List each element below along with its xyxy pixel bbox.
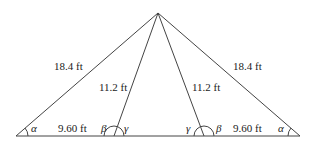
left-beta-gamma-arc <box>104 126 124 136</box>
left-base-length: 9.60 ft <box>58 123 87 134</box>
left-beta-label: β <box>101 123 106 134</box>
right-outer-length: 18.4 ft <box>233 61 262 72</box>
left-inner-length: 11.2 ft <box>99 82 127 93</box>
right-inner-side <box>158 13 204 136</box>
right-inner-length: 11.2 ft <box>192 82 220 93</box>
triangle-diagram: 18.4 ft 18.4 ft 11.2 ft 11.2 ft 9.60 ft … <box>0 0 316 146</box>
diagram-lines <box>0 0 316 146</box>
right-gamma-beta-arc <box>194 126 214 136</box>
left-gamma-label: γ <box>124 123 128 134</box>
left-outer-side <box>16 13 158 136</box>
right-alpha-label: α <box>278 123 284 134</box>
right-beta-label: β <box>216 123 221 134</box>
right-gamma-label: γ <box>186 123 190 134</box>
left-alpha-label: α <box>31 123 37 134</box>
left-outer-length: 18.4 ft <box>54 61 83 72</box>
left-alpha-arc <box>25 128 28 136</box>
right-alpha-arc <box>288 128 291 136</box>
right-base-length: 9.60 ft <box>233 123 262 134</box>
right-outer-side <box>158 13 300 136</box>
